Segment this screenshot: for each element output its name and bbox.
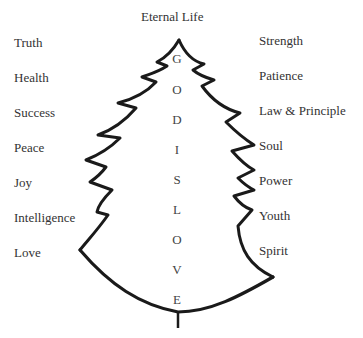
letter-s: S bbox=[170, 172, 184, 188]
label-strength: Strength bbox=[259, 34, 303, 48]
letter-e: E bbox=[170, 292, 184, 308]
label-truth: Truth bbox=[14, 36, 42, 50]
label-law-principle: Law & Principle bbox=[259, 104, 346, 118]
label-love: Love bbox=[14, 246, 41, 260]
letter-l: L bbox=[170, 202, 184, 218]
label-peace: Peace bbox=[14, 141, 44, 155]
letter-d: D bbox=[170, 112, 184, 128]
diagram-title: Eternal Life bbox=[141, 10, 203, 24]
label-soul: Soul bbox=[259, 139, 283, 153]
letter-o2: O bbox=[170, 232, 184, 248]
label-joy: Joy bbox=[14, 176, 32, 190]
label-patience: Patience bbox=[259, 69, 303, 83]
letter-i: I bbox=[170, 142, 184, 158]
letter-v: V bbox=[170, 262, 184, 278]
label-health: Health bbox=[14, 71, 49, 85]
label-success: Success bbox=[14, 106, 55, 120]
letter-g: G bbox=[170, 51, 184, 67]
label-spirit: Spirit bbox=[259, 244, 288, 258]
label-intelligence: Intelligence bbox=[14, 211, 75, 225]
label-youth: Youth bbox=[259, 209, 290, 223]
letter-o: O bbox=[170, 82, 184, 98]
tree-left-edge bbox=[80, 40, 179, 250]
label-power: Power bbox=[259, 174, 292, 188]
